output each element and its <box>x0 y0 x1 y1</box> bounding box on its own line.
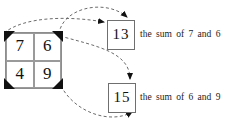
grid-corner-mark-top-right-icon <box>52 31 63 42</box>
grid-corner-mark-bottom-right-icon <box>52 78 63 89</box>
sum-15-caption: the sum of 6 and 9 <box>140 92 220 102</box>
grid-corner-mark-top-left-icon <box>4 31 15 42</box>
grid-corner-mark-bottom-left-icon <box>4 78 15 89</box>
sum-15-box: 15 <box>108 83 136 113</box>
diagram-canvas: 7 6 4 9 13 the sum of 7 and 6 15 the sum… <box>0 0 234 121</box>
sum-13-box: 13 <box>107 20 135 50</box>
sum-13-caption: the sum of 7 and 6 <box>140 29 220 39</box>
